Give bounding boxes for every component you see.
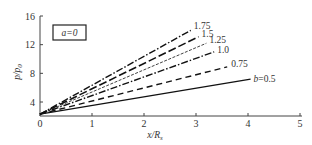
svg-text:0.75: 0.75 [231,59,248,69]
chart: 012345481216 1.751.51.251.00.75b=0.5 a=0… [0,0,312,145]
y-axis-label: p/p0 [12,64,24,81]
svg-text:1.25: 1.25 [209,35,226,45]
svg-text:b=0.5: b=0.5 [254,74,276,84]
legend-text: a=0 [62,28,78,38]
svg-text:4: 4 [30,97,35,108]
svg-text:2: 2 [142,118,147,129]
svg-text:4: 4 [246,118,251,129]
svg-text:1.0: 1.0 [217,45,229,55]
svg-text:1: 1 [90,118,95,129]
svg-text:3: 3 [194,118,199,129]
x-axis-label: x/Rs [146,130,163,142]
svg-text:16: 16 [25,11,35,22]
svg-text:0: 0 [38,118,43,129]
svg-text:5: 5 [298,118,303,129]
svg-text:8: 8 [30,68,35,79]
svg-text:12: 12 [25,39,35,50]
series-labels: 1.751.51.251.00.75b=0.5 [194,21,276,84]
